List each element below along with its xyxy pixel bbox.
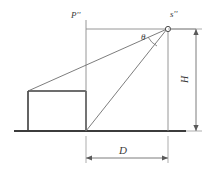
geometry-diagram: P'' s'' θ H D [0, 0, 215, 183]
label-distance: D [118, 144, 127, 156]
label-angle-theta: θ [141, 32, 146, 42]
sight-line-upper [28, 29, 167, 91]
dimension-height-arrow-bottom [193, 125, 198, 131]
label-source-point: s'' [170, 9, 178, 19]
angle-arc-theta [148, 37, 157, 46]
label-height: H [179, 75, 190, 84]
dimension-height-arrow-top [193, 29, 198, 35]
dimension-line-distance [86, 136, 168, 163]
label-principal-point: P'' [70, 10, 81, 20]
figure-canvas: P'' s'' θ H D [0, 0, 215, 183]
dimension-distance-arrow-left [86, 156, 92, 161]
box-shape [28, 91, 86, 131]
dimension-distance-arrow-right [162, 156, 168, 161]
